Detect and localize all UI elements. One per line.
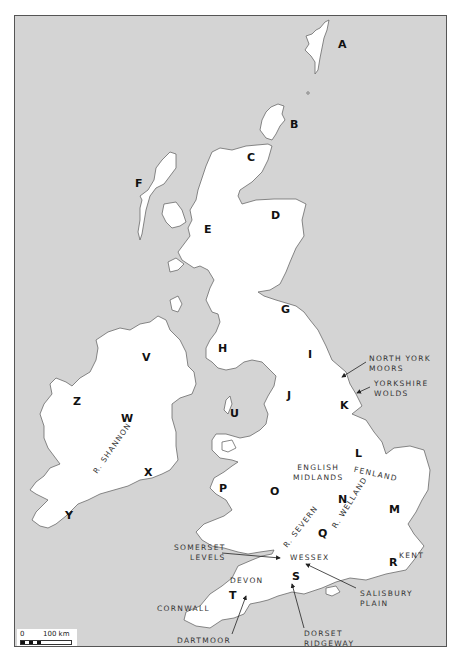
region-label-c: C <box>247 152 255 163</box>
region-label-r: R <box>389 557 397 568</box>
region-label-k: K <box>340 400 349 411</box>
place-dartmoor: DARTMOOR <box>177 636 231 646</box>
region-label-v: V <box>142 352 151 363</box>
region-label-a: A <box>338 39 347 50</box>
place-devon: DEVON <box>230 576 264 586</box>
region-label-u: U <box>230 408 239 419</box>
place-wessex: WESSEX <box>290 553 329 563</box>
place-line: MIDLANDS <box>293 473 344 483</box>
ireland <box>30 316 196 528</box>
region-label-e: E <box>204 224 212 235</box>
place-north-york-moors: NORTH YORK MOORS <box>369 354 431 374</box>
place-line: NORTH YORK <box>369 354 431 364</box>
region-label-g: G <box>281 304 290 315</box>
place-line: ENGLISH <box>293 463 344 473</box>
place-dorset-ridgeway: DORSET RIDGEWAY <box>304 629 354 649</box>
place-line: LEVELS <box>174 553 226 563</box>
region-label-y: Y <box>65 510 73 521</box>
place-line: KENT <box>399 551 424 561</box>
place-line: WOLDS <box>374 389 428 399</box>
place-english-midlands: ENGLISH MIDLANDS <box>293 463 344 483</box>
place-line: RIDGEWAY <box>304 639 354 649</box>
region-label-z: Z <box>73 396 81 407</box>
orkney <box>260 104 285 140</box>
region-label-s: S <box>292 571 300 582</box>
place-line: SOMERSET <box>174 543 226 553</box>
islay <box>170 296 182 312</box>
region-label-x: X <box>144 467 152 478</box>
skye <box>162 202 186 228</box>
place-line: SALISBURY <box>360 589 413 599</box>
scale-end-label: 100 km <box>43 630 69 638</box>
region-label-d: D <box>271 210 280 221</box>
place-line: DORSET <box>304 629 354 639</box>
region-label-h: H <box>218 343 227 354</box>
region-label-q: Q <box>318 528 327 539</box>
place-line: MOORS <box>369 364 431 374</box>
region-label-o: O <box>270 486 279 497</box>
scale-segment <box>21 641 25 644</box>
region-label-t: T <box>229 590 237 601</box>
place-line: DARTMOOR <box>177 636 231 646</box>
place-line: PLAIN <box>360 599 413 609</box>
mull <box>168 258 184 272</box>
place-line: YORKSHIRE <box>374 379 428 389</box>
region-label-p: P <box>219 483 227 494</box>
region-label-i: I <box>308 349 312 360</box>
scale-segment <box>29 641 33 644</box>
place-kent: KENT <box>399 551 424 561</box>
isle-of-wight <box>326 586 340 596</box>
place-somerset-levels: SOMERSET LEVELS <box>174 543 226 563</box>
place-line: DEVON <box>230 576 264 586</box>
scale-ruler <box>20 640 72 645</box>
place-salisbury-plain: SALISBURY PLAIN <box>360 589 413 609</box>
place-cornwall: CORNWALL <box>157 604 210 614</box>
place-line: WESSEX <box>290 553 329 563</box>
region-label-m: M <box>389 504 400 515</box>
shetland <box>305 20 329 74</box>
region-label-f: F <box>135 178 143 189</box>
place-yorkshire-wolds: YORKSHIRE WOLDS <box>374 379 428 399</box>
place-line: CORNWALL <box>157 604 210 614</box>
scale-segment <box>37 641 41 644</box>
scale-zero-label: 0 <box>20 630 24 638</box>
region-label-j: J <box>287 390 291 401</box>
scale-bar: 0 100 km <box>17 629 77 646</box>
region-label-b: B <box>290 119 298 130</box>
region-label-l: L <box>355 448 362 459</box>
